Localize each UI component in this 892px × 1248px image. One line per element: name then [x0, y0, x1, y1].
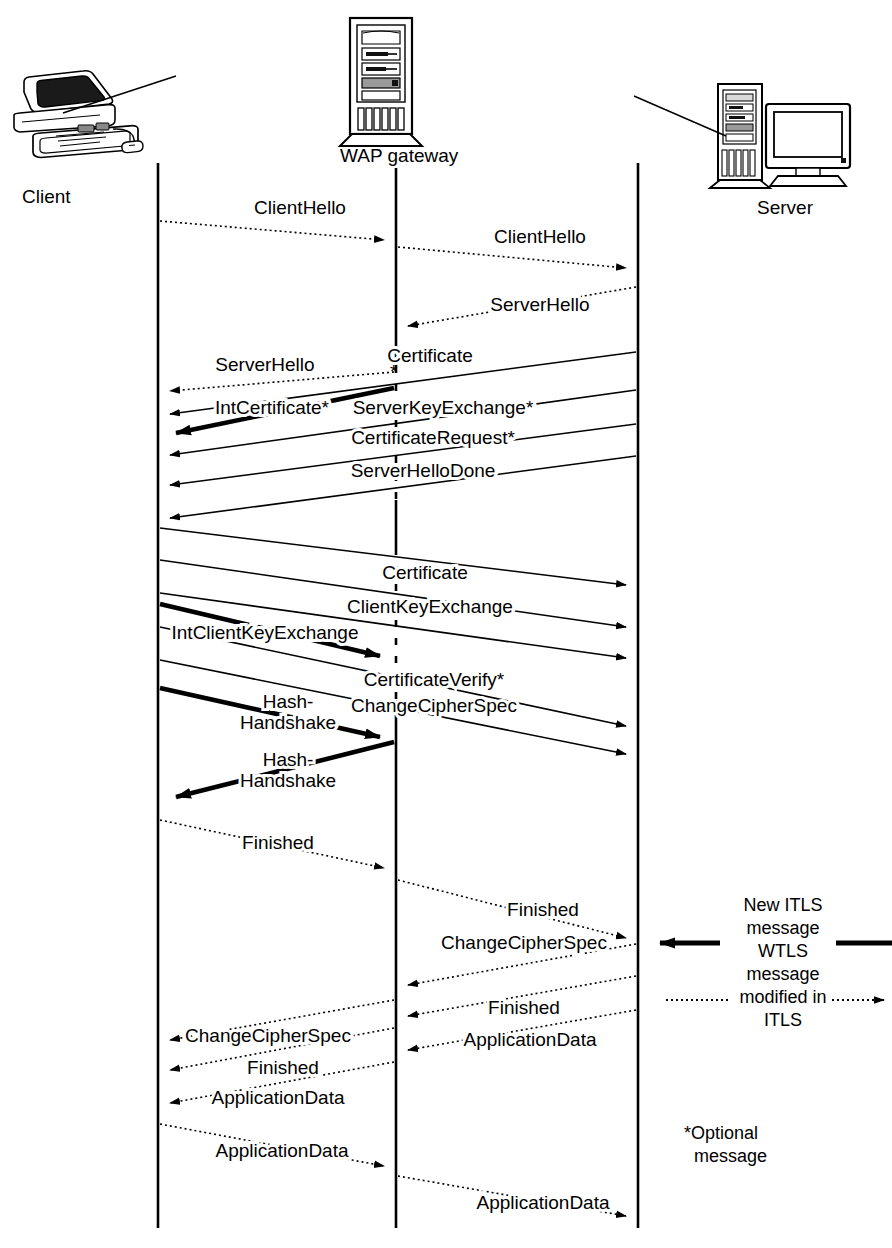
- message-label-m10: Certificate Certificate: [382, 562, 468, 583]
- svg-text:ServerHello: ServerHello: [215, 354, 314, 375]
- legend-line-1: New ITLS: [743, 895, 822, 915]
- message-label-m12: IntClientKeyExchange IntClientKeyExchang…: [172, 622, 359, 643]
- actor-label-gateway: WAP gateway: [340, 145, 459, 166]
- diagram-canvas: Client WAP gateway: [0, 0, 892, 1248]
- footnote-line-1: *Optional: [684, 1123, 758, 1143]
- message-label-m04: ServerHello ServerHello: [215, 354, 314, 375]
- svg-text:ClientKeyExchange: ClientKeyExchange: [347, 596, 513, 617]
- svg-text:CertificateRequest*: CertificateRequest*: [351, 427, 515, 448]
- message-label-m20: Finished Finished: [488, 997, 560, 1018]
- message-label-m17: Finished Finished: [242, 832, 314, 853]
- svg-text:Certificate: Certificate: [387, 345, 473, 366]
- message-label-m25: ApplicationData ApplicationData: [215, 1140, 349, 1161]
- message-label-m13: CertificateVerify* CertificateVerify*: [364, 669, 505, 690]
- svg-text:Handshake: Handshake: [240, 712, 336, 733]
- legend-line-6: ITLS: [764, 1010, 802, 1030]
- svg-text:Finished: Finished: [507, 899, 579, 920]
- legend-line-2: message: [746, 918, 819, 938]
- svg-text:ApplicationData: ApplicationData: [211, 1087, 345, 1108]
- svg-text:Handshake: Handshake: [240, 770, 336, 791]
- message-label-m02: ClientHello ClientHello: [494, 226, 586, 247]
- svg-text:Certificate: Certificate: [382, 562, 468, 583]
- svg-text:CertificateVerify*: CertificateVerify*: [364, 669, 505, 690]
- svg-text:ApplicationData: ApplicationData: [476, 1192, 610, 1213]
- svg-text:Finished: Finished: [247, 1057, 319, 1078]
- message-label-m14: ChangeCipherSpec ChangeCipherSpec: [351, 695, 517, 716]
- svg-text:ApplicationData: ApplicationData: [463, 1029, 597, 1050]
- message-label-m19: ChangeCipherSpec ChangeCipherSpec: [441, 932, 607, 953]
- message-label-m22: ChangeCipherSpec ChangeCipherSpec: [185, 1025, 351, 1046]
- svg-text:ServerHelloDone: ServerHelloDone: [351, 460, 496, 481]
- svg-text:Hash-: Hash-: [263, 691, 314, 712]
- svg-text:ServerKeyExchange*: ServerKeyExchange*: [353, 397, 534, 418]
- svg-text:ChangeCipherSpec: ChangeCipherSpec: [351, 695, 517, 716]
- message-label-m21: ApplicationData ApplicationData: [463, 1029, 597, 1050]
- message-label-m26: ApplicationData ApplicationData: [476, 1192, 610, 1213]
- svg-text:IntClientKeyExchange: IntClientKeyExchange: [172, 622, 359, 643]
- legend-line-5: modified in: [739, 987, 826, 1007]
- message-label-m06: IntCertificate* IntCertificate*: [215, 397, 330, 418]
- legend-line-4: message: [746, 964, 819, 984]
- message-label-m18: Finished Finished: [507, 899, 579, 920]
- legend-line-3: WTLS: [758, 941, 808, 961]
- message-label-m11: ClientKeyExchange ClientKeyExchange: [347, 596, 513, 617]
- svg-text:ApplicationData: ApplicationData: [215, 1140, 349, 1161]
- svg-text:IntCertificate*: IntCertificate*: [215, 397, 330, 418]
- message-label-m24: ApplicationData ApplicationData: [211, 1087, 345, 1108]
- sequence-diagram: Client WAP gateway: [0, 0, 892, 1248]
- svg-text:Finished: Finished: [488, 997, 560, 1018]
- message-label-m03: ServerHello ServerHello: [490, 294, 589, 315]
- message-label-m01: ClientHello ClientHello: [254, 197, 346, 218]
- message-label-m23: Finished Finished: [247, 1057, 319, 1078]
- actor-label-server: Server: [757, 197, 814, 218]
- svg-text:ClientHello: ClientHello: [494, 226, 586, 247]
- svg-text:ServerHello: ServerHello: [490, 294, 589, 315]
- message-label-m07: ServerKeyExchange* ServerKeyExchange*: [353, 397, 534, 418]
- svg-text:Finished: Finished: [242, 832, 314, 853]
- message-label-m08: CertificateRequest* CertificateRequest*: [351, 427, 515, 448]
- message-label-m09: ServerHelloDone ServerHelloDone: [351, 460, 496, 481]
- message-label-m05: Certificate Certificate: [387, 345, 473, 366]
- svg-text:ChangeCipherSpec: ChangeCipherSpec: [185, 1025, 351, 1046]
- server-tower-icon: [340, 18, 422, 146]
- svg-text:ClientHello: ClientHello: [254, 197, 346, 218]
- footnote-line-2: message: [694, 1146, 767, 1166]
- svg-text:ChangeCipherSpec: ChangeCipherSpec: [441, 932, 607, 953]
- actor-label-client: Client: [22, 186, 71, 207]
- svg-text:Hash-: Hash-: [263, 749, 314, 770]
